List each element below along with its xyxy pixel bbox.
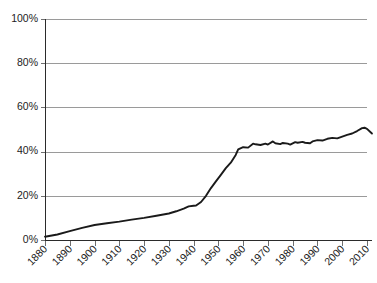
x-axis-tick-label: 1980 bbox=[272, 242, 297, 267]
y-axis-tick-label: 40% bbox=[17, 144, 38, 156]
y-axis-tick-labels: 0%20%40%60%80%100% bbox=[11, 12, 38, 245]
axis-lines bbox=[45, 19, 372, 241]
x-axis-tick-labels: 1880189019001910192019301940195019601970… bbox=[24, 242, 371, 267]
x-axis-tick-label: 1960 bbox=[223, 242, 248, 267]
gridlines bbox=[41, 20, 367, 241]
line-chart: 0%20%40%60%80%100% 188018901900191019201… bbox=[0, 0, 377, 283]
x-axis-tick-marks bbox=[46, 241, 368, 246]
chart-canvas: 0%20%40%60%80%100% 188018901900191019201… bbox=[0, 0, 377, 283]
y-axis-tick-label: 100% bbox=[11, 12, 38, 24]
y-axis-tick-label: 20% bbox=[17, 189, 38, 201]
x-axis-tick-label: 1970 bbox=[247, 242, 272, 267]
data-line-1 bbox=[45, 128, 372, 237]
x-axis-tick-label: 1940 bbox=[173, 242, 198, 267]
x-axis-tick-label: 1900 bbox=[74, 242, 99, 267]
x-axis-tick-label: 1990 bbox=[297, 242, 322, 267]
x-axis-tick-label: 1880 bbox=[24, 242, 49, 267]
x-axis-tick-label: 1950 bbox=[198, 242, 223, 267]
y-axis-tick-label: 0% bbox=[23, 233, 38, 245]
x-axis-tick-label: 2010 bbox=[346, 242, 371, 267]
x-axis-tick-label: 1890 bbox=[49, 242, 74, 267]
x-axis-tick-label: 2000 bbox=[322, 242, 347, 267]
x-axis-tick-label: 1930 bbox=[148, 242, 173, 267]
y-axis-tick-label: 80% bbox=[17, 56, 38, 68]
y-axis-tick-label: 60% bbox=[17, 100, 38, 112]
data-series bbox=[45, 128, 372, 237]
x-axis-tick-label: 1920 bbox=[123, 242, 148, 267]
x-axis-tick-label: 1910 bbox=[99, 242, 124, 267]
